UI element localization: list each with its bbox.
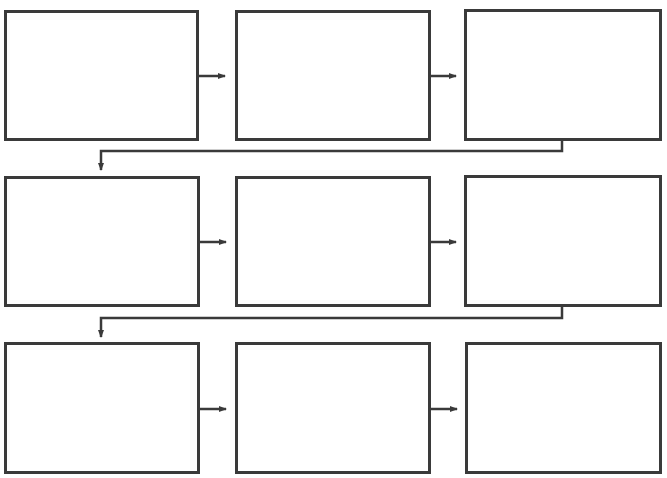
flow-box-step-7 (4, 342, 200, 474)
flow-box-step-8 (235, 342, 431, 474)
arrow-step3-to-step4 (101, 141, 562, 170)
arrow-step6-to-step7 (101, 307, 562, 337)
flow-box-step-4 (4, 176, 200, 307)
flow-box-step-5 (235, 176, 431, 307)
flow-box-step-1 (4, 10, 199, 141)
flow-box-step-9 (465, 342, 662, 474)
flow-box-step-2 (235, 10, 431, 141)
flow-box-step-6 (464, 175, 662, 307)
flow-box-step-3 (464, 9, 662, 141)
